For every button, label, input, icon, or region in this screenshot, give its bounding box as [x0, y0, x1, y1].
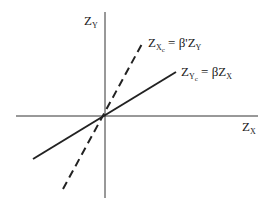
regression-lines-diagram: [0, 0, 273, 211]
equation-equals: =: [165, 35, 179, 50]
equation-rhs-sub: X: [226, 72, 232, 81]
x-axis-label-main: Z: [242, 119, 250, 134]
y-axis-label: ZY: [84, 14, 98, 30]
equation-rhs-sub: Y: [196, 43, 202, 52]
solid-line-equation: ZYc = βZX: [181, 65, 232, 83]
equation-lhs: Z: [181, 64, 189, 79]
y-axis-label-main: Z: [84, 13, 92, 28]
equation-lhs: Z: [148, 35, 156, 50]
dashed-line-equation: ZXc = β'ZY: [148, 36, 201, 54]
equation-rhs: βZ: [212, 64, 227, 79]
x-axis-label-sub: X: [250, 127, 256, 136]
x-axis-label: ZX: [242, 120, 256, 136]
equation-equals: =: [198, 64, 212, 79]
equation-rhs: β'Z: [179, 35, 196, 50]
y-axis-label-sub: Y: [92, 21, 98, 30]
